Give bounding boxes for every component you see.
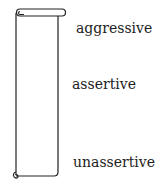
label-unassertive: unassertive <box>73 155 155 169</box>
label-assertive: assertive <box>72 77 136 91</box>
label-aggressive: aggressive <box>76 21 152 35</box>
